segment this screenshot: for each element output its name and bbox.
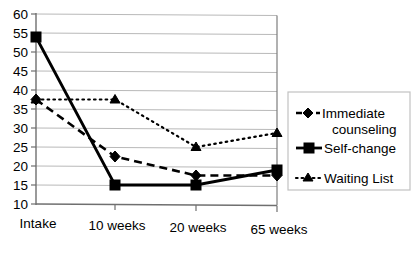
square-icon (304, 143, 314, 153)
y-tick-label: 40 (13, 83, 28, 98)
gridline-20 (36, 166, 277, 168)
y-tick-label: 35 (13, 102, 28, 117)
line-chart: 60 55 50 45 40 35 30 25 20 15 10 Intake … (0, 0, 420, 260)
legend-label: Waiting List (324, 171, 394, 186)
chart-svg: 60 55 50 45 40 35 30 25 20 15 10 Intake … (0, 0, 420, 260)
gridline-25 (36, 147, 277, 149)
x-tick-label: 65 weeks (250, 222, 307, 237)
data-point-marker (31, 32, 41, 42)
x-tick-label: 10 weeks (88, 218, 145, 233)
data-point-marker (272, 165, 282, 175)
gridline-30 (36, 128, 277, 130)
y-tick-label: 15 (13, 178, 28, 193)
series-line-immediate-counseling (36, 100, 277, 176)
gridline-55 (36, 33, 277, 35)
y-tick-label: 50 (13, 45, 28, 60)
series-line-self-change (36, 37, 277, 185)
y-tick-label: 30 (13, 121, 28, 136)
y-axis-labels: 60 55 50 45 40 35 30 25 20 15 10 (13, 7, 28, 212)
legend-entry-waiting-list[interactable]: Waiting List (296, 171, 394, 186)
data-point-marker (191, 180, 201, 190)
chart-legend: Immediate counseling Self-change Waiting… (288, 92, 410, 190)
y-tick-label: 60 (13, 7, 28, 22)
x-axis-labels: Intake 10 weeks 20 weeks 65 weeks (20, 216, 308, 237)
y-tick-label: 45 (13, 64, 28, 79)
legend-label-line2: counseling (332, 122, 397, 137)
gridline-60 (36, 14, 277, 16)
x-tickmarks (115, 205, 277, 212)
data-point-marker (110, 180, 120, 190)
series-immediate-counseling (31, 94, 282, 181)
y-tick-label: 10 (13, 197, 28, 212)
x-tick-label: 20 weeks (169, 220, 226, 235)
gridline-35 (36, 109, 277, 111)
y-tick-label: 55 (13, 26, 28, 41)
data-point-marker (191, 170, 201, 181)
legend-label: Immediate (322, 106, 385, 121)
x-tick-label: Intake (20, 216, 57, 231)
y-tick-label: 20 (13, 159, 28, 174)
y-tick-label: 25 (13, 140, 28, 155)
legend-label: Self-change (324, 141, 396, 156)
diamond-icon (303, 108, 313, 118)
legend-entry-immediate-counseling[interactable]: Immediate counseling (296, 106, 397, 137)
gridline-45 (36, 71, 277, 73)
x-axis (36, 204, 277, 206)
gridline-50 (36, 52, 277, 54)
legend-entry-self-change[interactable]: Self-change (296, 141, 396, 156)
gridline-40 (36, 90, 277, 92)
triangle-icon (303, 173, 313, 181)
